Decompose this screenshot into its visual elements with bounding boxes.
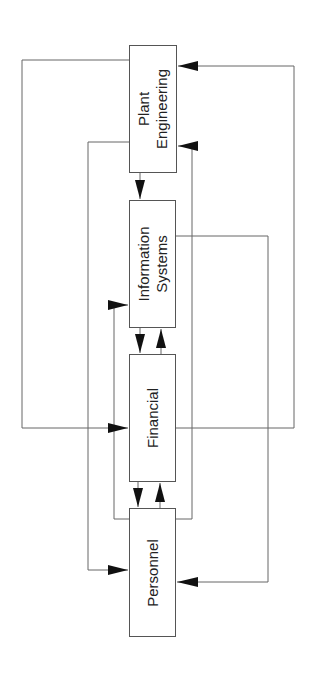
arrow-right-icon [108, 423, 128, 433]
node-label: Information Systems [135, 226, 171, 301]
node-plant-engineering: Plant Engineering [129, 45, 177, 173]
edge-financial-to-plant [176, 66, 294, 428]
edge-plant-to-financial [22, 60, 129, 428]
node-label: Plant Engineering [135, 69, 171, 149]
arrow-left-icon [178, 61, 198, 71]
node-personnel: Personnel [129, 508, 176, 637]
edge-plant-to-personnel [88, 142, 129, 570]
arrow-left-icon [178, 141, 198, 151]
arrow-right-icon [108, 300, 128, 310]
arrow-up-icon [155, 483, 165, 502]
arrow-down-icon [135, 180, 145, 199]
edge-infosys-to-personnel [176, 236, 268, 582]
arrow-down-icon [133, 488, 143, 507]
arrow-left-icon [177, 577, 198, 587]
arrow-down-icon [135, 334, 145, 353]
edge-personnel-to-plant [176, 146, 192, 519]
node-financial: Financial [129, 354, 176, 482]
node-information-systems: Information Systems [129, 200, 176, 328]
edge-personnel-to-infosys [114, 305, 129, 519]
arrow-right-icon [108, 565, 128, 575]
arrow-up-icon [156, 329, 166, 348]
node-label: Personnel [144, 539, 162, 607]
node-label: Financial [144, 388, 162, 448]
